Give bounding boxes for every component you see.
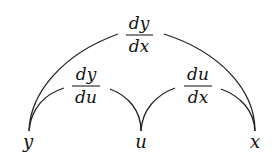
fraction-denominator: dx bbox=[188, 87, 209, 107]
node-u: u bbox=[135, 131, 147, 152]
edge-u-x-arc-left bbox=[141, 88, 175, 131]
edge-y-u-arc-right bbox=[110, 89, 141, 131]
label-du-dx: du dx bbox=[184, 64, 212, 107]
label-dy-du: dy du bbox=[72, 64, 100, 107]
edge-y-x-arc-left bbox=[29, 34, 118, 131]
fraction-numerator: du bbox=[187, 64, 209, 84]
fraction-numerator: dy bbox=[76, 64, 97, 84]
diagram-svg: dy dx dy du du dx y u x bbox=[0, 0, 278, 163]
chain-rule-diagram: dy dx dy du du dx y u x bbox=[0, 0, 278, 163]
edge-y-u-arc-left bbox=[29, 88, 64, 131]
edge-u-x-arc-right bbox=[221, 89, 255, 131]
fraction-denominator: dx bbox=[129, 36, 150, 56]
node-x: x bbox=[250, 131, 260, 152]
label-dy-dx: dy dx bbox=[126, 13, 153, 56]
edge-y-x-arc-right bbox=[164, 34, 255, 131]
node-y: y bbox=[22, 131, 34, 152]
fraction-numerator: dy bbox=[129, 13, 150, 33]
fraction-denominator: du bbox=[75, 87, 97, 107]
